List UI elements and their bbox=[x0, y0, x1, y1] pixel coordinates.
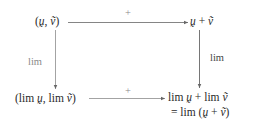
lim-text: , lim bbox=[43, 92, 67, 104]
var-v: ṽ bbox=[222, 91, 227, 103]
lim-text: lim bbox=[168, 91, 186, 103]
node-top-right: ṵ + ṽ bbox=[190, 16, 213, 28]
lim-text: + lim bbox=[192, 91, 222, 103]
bottom-arrow-label: + bbox=[125, 86, 131, 97]
node-bottom-right-line2: = lim (ṵ + ṽ) bbox=[171, 107, 229, 119]
paren: ) bbox=[72, 92, 76, 104]
right-arrow-label: lim bbox=[210, 53, 224, 64]
plus: + bbox=[196, 15, 208, 27]
left-arrow-label: lim bbox=[28, 57, 42, 68]
paren: ) bbox=[55, 15, 59, 27]
var-v: ṽ bbox=[208, 15, 213, 27]
paren: ) bbox=[226, 106, 230, 118]
node-bottom-right-line1: lim ṵ + lim ṽ bbox=[168, 92, 228, 104]
node-bottom-left: (lim ṵ, lim ṽ) bbox=[15, 93, 76, 105]
node-top-left: (ṵ, ṽ) bbox=[35, 16, 59, 28]
lim-text: (lim bbox=[15, 92, 37, 104]
top-arrow-label: + bbox=[125, 8, 131, 19]
plus: + bbox=[208, 106, 220, 118]
lim-text: = lim ( bbox=[171, 106, 202, 118]
